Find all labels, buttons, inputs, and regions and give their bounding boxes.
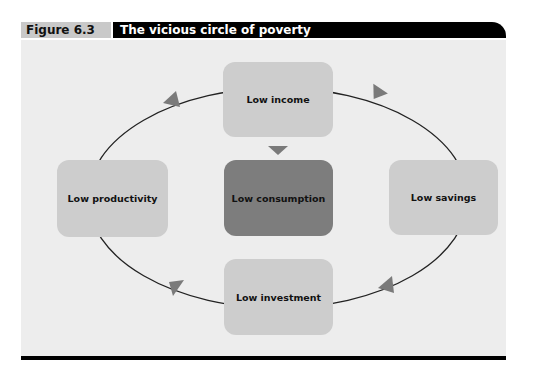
node-low-income: Low income [223,62,333,137]
down-arrow-icon [268,146,288,155]
node-low-productivity: Low productivity [57,160,168,237]
bottom-rule [21,356,506,360]
node-low-investment: Low investment [224,259,333,335]
node-label: Low savings [411,192,476,203]
node-label: Low investment [236,292,321,303]
node-label: Low consumption [232,193,326,204]
node-label: Low income [246,94,309,105]
node-low-savings: Low savings [389,160,498,235]
node-low-consumption: Low consumption [224,160,333,236]
node-label: Low productivity [68,193,158,204]
